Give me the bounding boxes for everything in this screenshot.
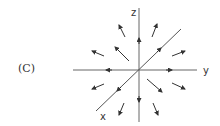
arrow-upper-left-steep (119, 25, 125, 37)
z-axis-label: z (131, 7, 136, 18)
arrow-lower-right-inner (147, 79, 162, 92)
arrow-right-upper (172, 51, 185, 56)
arrow-right-lower (172, 83, 185, 89)
y-axis-label: y (203, 65, 209, 76)
arrow-left-upper (92, 51, 104, 56)
arrow-lower-right-steep (153, 103, 158, 115)
arrow-upper-right-steep (152, 24, 157, 37)
x-axis-label: x (100, 111, 106, 122)
vector-field-diagram: (C) z y x (0, 0, 220, 126)
arrow-left-lower (92, 84, 104, 89)
axes-and-arrows: z y x (0, 0, 220, 126)
arrow-along-pos-x (117, 87, 121, 91)
arrow-upper-left-inner (115, 47, 129, 61)
arrow-lower-left-steep (119, 103, 124, 115)
arrow-along-neg-x (157, 48, 161, 52)
